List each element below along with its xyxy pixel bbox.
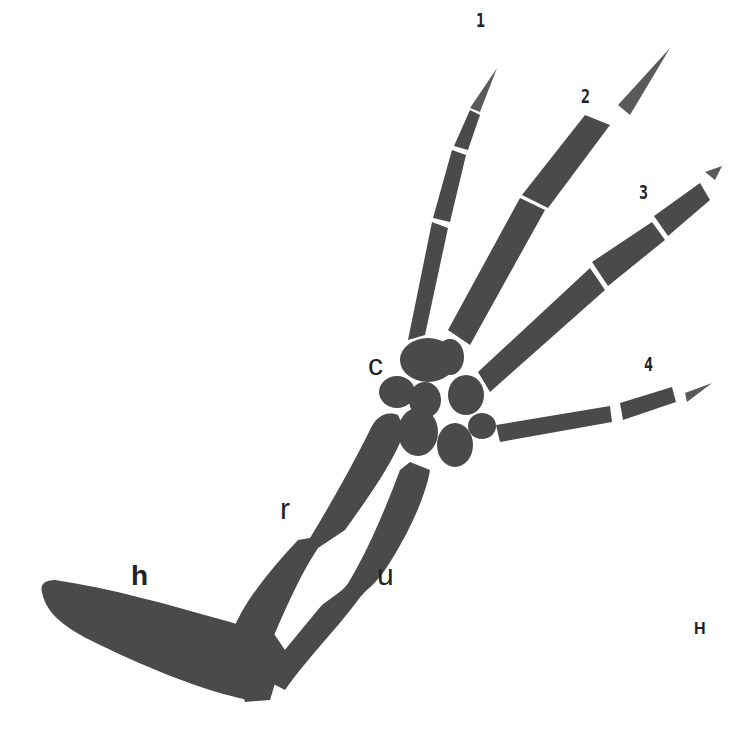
digit-2-label: 2 — [581, 86, 590, 106]
digit-4-bones — [496, 383, 712, 442]
digit-3-bones — [478, 166, 722, 392]
carpal-bone — [436, 339, 464, 375]
humerus-label: h — [131, 562, 148, 590]
carpal-bone — [398, 408, 438, 456]
carpal-bone — [448, 375, 484, 415]
radius-label: r — [280, 494, 290, 524]
digit-1-label: 1 — [476, 10, 485, 30]
carpus-label: c — [368, 350, 383, 380]
carpal-bone — [468, 413, 496, 439]
carpal-bone — [437, 423, 473, 467]
ulna-label: u — [377, 560, 394, 590]
forelimb-skeleton-diagram: 1 2 3 4 c r u h H — [0, 0, 750, 730]
panel-label: H — [694, 621, 706, 637]
digit-3-label: 3 — [639, 182, 648, 202]
digit-4-label: 4 — [644, 354, 653, 374]
